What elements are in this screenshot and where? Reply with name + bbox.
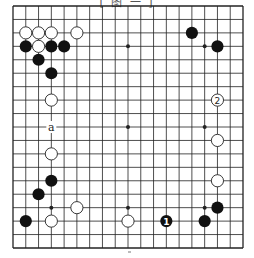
- star-point-icon: [126, 44, 130, 48]
- star-point-icon: [203, 206, 207, 210]
- black-stone-icon: [45, 175, 57, 187]
- black-stone-icon: [211, 202, 223, 214]
- page-mark: [128, 251, 131, 253]
- point-label-a: a: [48, 121, 55, 134]
- white-stone-icon: [45, 215, 57, 227]
- black-stone-icon: [20, 40, 32, 52]
- white-stone-icon: [211, 175, 223, 187]
- black-stone-icon: [20, 215, 32, 227]
- star-point-icon: [203, 125, 207, 129]
- black-stone-icon: [45, 67, 57, 79]
- white-stone-icon: [32, 40, 44, 52]
- white-stone-icon: [32, 27, 44, 39]
- black-stone-icon: [58, 40, 70, 52]
- black-stone-icon: [199, 215, 211, 227]
- black-stone-icon: [32, 188, 44, 200]
- white-stone-icon: [45, 148, 57, 160]
- move-number-label: 1: [163, 217, 169, 227]
- black-stone-icon: [45, 40, 57, 52]
- star-point-icon: [49, 206, 53, 210]
- white-stone-icon: [122, 215, 134, 227]
- star-point-icon: [126, 206, 130, 210]
- white-stone-icon: [71, 27, 83, 39]
- white-stone-icon: [45, 94, 57, 106]
- white-stone-icon: [71, 202, 83, 214]
- white-stone-icon: [211, 134, 223, 146]
- white-stone-icon: [45, 27, 57, 39]
- black-stone-icon: [211, 40, 223, 52]
- black-stone-icon: [186, 27, 198, 39]
- white-stone-icon: [20, 27, 32, 39]
- star-point-icon: [203, 44, 207, 48]
- move-number-label: 2: [215, 96, 221, 106]
- point-labels: a: [46, 121, 56, 134]
- star-point-icon: [126, 125, 130, 129]
- black-stone-icon: [32, 54, 44, 66]
- go-board: a 12: [0, 0, 254, 258]
